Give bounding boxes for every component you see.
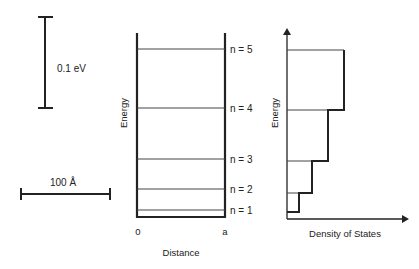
- x-tick-a: a: [222, 226, 228, 237]
- energy-scale-label: 0.1 eV: [57, 63, 86, 74]
- dos-y-axis-label: Energy: [269, 98, 280, 128]
- x-tick-0: 0: [135, 226, 140, 237]
- energy-level-label: n = 2: [230, 184, 253, 195]
- dos-panel: Energy Density of States: [269, 28, 409, 239]
- quantum-well-diagram: 0.1 eV 100 Å n = 1n = 2n = 3n = 4n = 5 E…: [0, 0, 419, 269]
- well-x-axis-label: Distance: [163, 247, 200, 258]
- well-y-axis-label: Energy: [118, 98, 129, 128]
- length-scale-label: 100 Å: [50, 176, 76, 188]
- dos-step-outline: [287, 50, 344, 212]
- dos-staircase: [287, 50, 344, 212]
- energy-scale-bar: 0.1 eV: [38, 17, 86, 108]
- y-arrow-icon: [283, 28, 291, 35]
- energy-level-label: n = 1: [230, 205, 253, 216]
- energy-levels: n = 1n = 2n = 3n = 4n = 5: [137, 44, 253, 216]
- well-panel: n = 1n = 2n = 3n = 4n = 5 Energy 0 a Dis…: [118, 33, 253, 258]
- energy-level-label: n = 3: [230, 154, 253, 165]
- length-scale-bar: 100 Å: [21, 176, 110, 200]
- x-arrow-icon: [402, 215, 409, 223]
- energy-level-label: n = 5: [230, 44, 253, 55]
- energy-level-label: n = 4: [230, 103, 253, 114]
- dos-x-axis-label: Density of States: [309, 228, 381, 239]
